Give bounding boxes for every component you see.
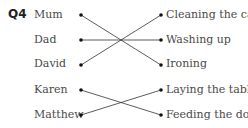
dot-icon	[159, 113, 163, 117]
dot-icon	[159, 38, 163, 42]
matching-lines	[0, 0, 248, 128]
dot-icon	[79, 113, 83, 117]
dot-icon	[159, 63, 163, 67]
dot-icon	[159, 13, 163, 17]
dot-icon	[159, 88, 163, 92]
dot-icon	[79, 38, 83, 42]
dot-icon	[79, 63, 83, 67]
dot-icon	[79, 13, 83, 17]
dot-icon	[79, 88, 83, 92]
